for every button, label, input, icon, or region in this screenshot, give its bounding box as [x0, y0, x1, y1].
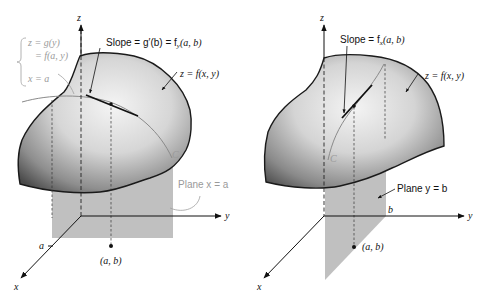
x-axis-right [264, 216, 324, 278]
curve-def-line2: = f(a, y) [35, 50, 69, 62]
right-panel: z y x b (a, b) Slope = fx(a, b) z = f(x,… [256, 12, 473, 292]
surface-label-left: z = f(x, y) [179, 68, 220, 80]
curve-def-line3: x = a [27, 73, 49, 84]
tangent-point-right [352, 104, 356, 108]
tangent-point-left [109, 102, 113, 106]
y-axis-label-left: y [224, 210, 230, 221]
surface-label-right: z = f(x, y) [424, 70, 465, 82]
curve-def-line1: z = g(y) [27, 37, 60, 49]
plane-label-left: Plane x = a [178, 179, 229, 190]
plane-label-right: Plane y = b [397, 183, 448, 194]
point-ab-label-right: (a, b) [362, 241, 384, 253]
slope-label-right: Slope = fx(a, b) [340, 34, 405, 47]
point-ab-left [109, 244, 113, 248]
z-axis-label-right: z [319, 12, 324, 23]
curve-c-label-left: C [172, 149, 179, 160]
curve-def-brace [17, 38, 26, 86]
slope-label-left: Slope = g′(b) = fy(a, b) [106, 37, 202, 50]
tick-b-label: b [388, 204, 393, 215]
plane-leader-left [170, 196, 200, 210]
curve-c-label-right: C [330, 153, 337, 164]
x-axis-label-right: x [256, 281, 262, 292]
tick-a-label: a [39, 240, 44, 251]
left-panel: z y x a (a, b) z = g(y) = f(a, y) x = a … [13, 12, 230, 292]
z-axis-label-left: z [76, 12, 81, 23]
x-axis-left [21, 216, 81, 278]
point-ab-right [352, 245, 356, 249]
point-ab-label-left: (a, b) [100, 255, 122, 267]
y-axis-label-right: y [467, 210, 473, 221]
figure-canvas: z y x a (a, b) z = g(y) = f(a, y) x = a … [0, 0, 486, 306]
x-axis-label-left: x [13, 281, 19, 292]
